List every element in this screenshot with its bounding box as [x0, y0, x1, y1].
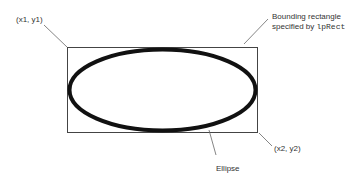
- leader-top-left: [44, 25, 67, 47]
- label-lprect-code: lpRect: [316, 22, 345, 31]
- ellipse-shape: [70, 50, 256, 131]
- label-bounding-prefix: specified by: [272, 22, 316, 31]
- ellipse-diagram: (x1, y1) Bounding rectangle specified by…: [0, 0, 351, 181]
- label-ellipse: Ellipse: [216, 164, 240, 174]
- leader-bounding: [244, 19, 268, 44]
- label-bounding-rect: Bounding rectangle specified by lpRect: [272, 12, 345, 32]
- leader-bottom-right: [259, 133, 272, 146]
- label-bounding-line1: Bounding rectangle: [272, 12, 345, 22]
- label-bottom-right: (x2, y2): [274, 144, 301, 154]
- label-top-left: (x1, y1): [16, 15, 43, 25]
- label-bounding-line2: specified by lpRect: [272, 22, 345, 32]
- leader-ellipse: [209, 130, 216, 155]
